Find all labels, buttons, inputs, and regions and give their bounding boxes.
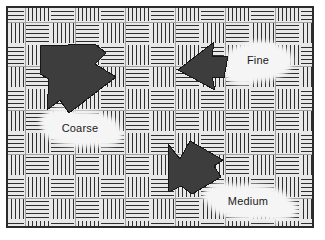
texture-diagram-svg: Coarse Fine Medium [0,0,325,240]
label-fine: Fine [247,54,269,66]
label-medium: Medium [228,195,268,207]
label-coarse: Coarse [62,122,99,134]
figure-root: Coarse Fine Medium [0,0,325,240]
